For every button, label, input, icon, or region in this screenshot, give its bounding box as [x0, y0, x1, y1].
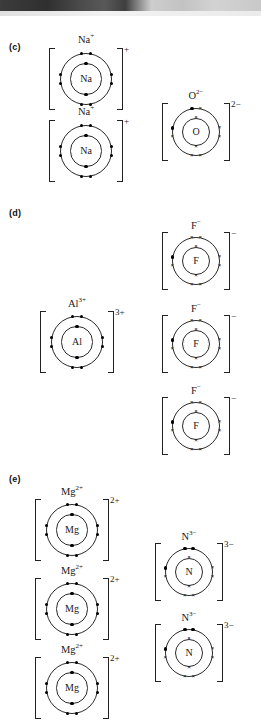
outer-electron-cross [217, 254, 222, 259]
electron-shells: Mg [46, 504, 98, 556]
outer-electron-cross [217, 428, 222, 433]
bracket-left [162, 232, 168, 290]
bracket-left [35, 499, 41, 561]
ion-caption-charge: 3− [189, 529, 196, 537]
ion-caption-symbol: N [181, 612, 189, 623]
outer-electron-dot [96, 524, 99, 527]
outer-electron-dot [80, 366, 83, 369]
outer-electron-cross [217, 134, 222, 139]
bracket-left [155, 624, 161, 682]
ion-caption-symbol: Mg [61, 565, 76, 576]
inner-electron-dot [84, 134, 87, 137]
outer-electron-cross [198, 153, 203, 158]
outer-electron-dot [96, 691, 99, 694]
ion-diagram-f1: −F [162, 232, 230, 290]
ion-caption-charge: + [90, 104, 94, 112]
ion-charge-mg1: 2+ [110, 496, 120, 505]
ion-caption-f1: F− [166, 218, 226, 231]
bracket-left [35, 578, 41, 640]
outer-electron-dot [101, 336, 104, 339]
outer-electron-cross [189, 447, 194, 452]
element-symbol-al1: Al [51, 337, 103, 347]
electron-shells: F [172, 402, 220, 450]
ion-caption-f2: F− [166, 301, 226, 314]
inner-electron-dot [84, 62, 87, 65]
outer-electron-dot [191, 547, 194, 550]
ion-caption-symbol: N [181, 531, 189, 542]
element-symbol-na1: Na [60, 74, 112, 84]
bracket-left [40, 311, 46, 373]
ion-charge-n2: 3− [224, 621, 234, 630]
outer-electron-cross [198, 365, 203, 370]
inner-electron-cross [187, 584, 192, 589]
ion-caption-symbol: Na [78, 34, 90, 45]
outer-electron-dot [66, 633, 69, 636]
outer-electron-dot [96, 612, 99, 615]
outer-electron-cross [163, 655, 168, 660]
element-symbol-f2: F [172, 339, 220, 349]
ion-caption-charge: 2+ [76, 484, 83, 492]
ion-diagram-al1: 3+Al [40, 311, 114, 373]
ion-diagram-mg1: 2+Mg [35, 499, 109, 561]
ion-caption-symbol: Al [68, 298, 79, 309]
outer-electron-dot [110, 82, 113, 85]
outer-electron-cross [198, 318, 203, 323]
outer-electron-dot [183, 628, 186, 631]
outer-electron-cross [217, 346, 222, 351]
electron-shells: F [172, 237, 220, 285]
bracket-right [217, 624, 223, 682]
outer-electron-cross [217, 263, 222, 268]
outer-electron-cross [189, 400, 194, 405]
electron-shells: N [165, 548, 213, 596]
outer-electron-cross [198, 282, 203, 287]
inner-electron-cross [194, 144, 199, 149]
ion-charge-f1: − [231, 229, 236, 238]
outer-electron-cross [217, 337, 222, 342]
outer-electron-dot [66, 554, 69, 557]
scan-edge-artifact [0, 0, 261, 11]
ion-caption-na1: Na+ [56, 32, 116, 45]
outer-electron-cross [217, 125, 222, 130]
inner-electron-cross [194, 115, 199, 120]
ion-diagram-o1: 2−O [162, 103, 230, 161]
outer-electron-cross [210, 655, 215, 660]
outer-electron-cross [198, 235, 203, 240]
outer-electron-cross [198, 106, 203, 111]
outer-electron-dot [110, 73, 113, 76]
ion-charge-mg2: 2+ [110, 575, 120, 584]
ion-caption-n1: N3− [159, 529, 219, 542]
outer-electron-dot [80, 175, 83, 178]
bracket-right [103, 657, 109, 719]
outer-electron-cross [189, 235, 194, 240]
inner-electron-cross [194, 327, 199, 332]
ion-charge-na2: + [124, 117, 129, 126]
ion-diagram-na2: +Na [49, 120, 123, 182]
bracket-left [162, 103, 168, 161]
scan-edge-artifact-fade [0, 11, 261, 16]
ion-caption-mg3: Mg2+ [42, 642, 102, 655]
outer-electron-dot [96, 682, 99, 685]
electron-shells: N [165, 629, 213, 677]
section-label-c: (c) [9, 42, 21, 52]
outer-electron-cross [217, 419, 222, 424]
bracket-right [103, 499, 109, 561]
ion-caption-al1: Al3+ [47, 296, 107, 309]
outer-electron-cross [191, 674, 196, 679]
ion-charge-f2: − [231, 312, 236, 321]
electron-shells: Mg [46, 583, 98, 635]
outer-electron-dot [75, 633, 78, 636]
ion-charge-o1: 2− [231, 100, 241, 109]
inner-electron-dot [70, 671, 73, 674]
element-symbol-n1: N [165, 567, 213, 577]
electron-shells: Mg [46, 662, 98, 714]
ion-charge-f3: − [231, 394, 236, 403]
inner-electron-cross [194, 244, 199, 249]
ion-caption-charge: − [197, 383, 201, 391]
outer-electron-cross [182, 674, 187, 679]
outer-electron-cross [210, 574, 215, 579]
inner-electron-cross [187, 555, 192, 560]
outer-electron-dot [190, 107, 193, 110]
outer-electron-cross [210, 565, 215, 570]
bracket-left [162, 315, 168, 373]
outer-electron-dot [191, 628, 194, 631]
